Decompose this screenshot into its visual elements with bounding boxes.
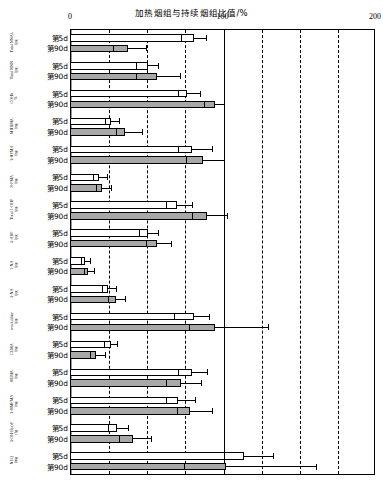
- bar-row: [70, 33, 375, 43]
- y-axis-day-label: 第5d: [34, 227, 68, 238]
- bar-row: [70, 378, 375, 388]
- bar-inner-marker: [71, 269, 85, 275]
- y-axis-day-label: 第5d: [34, 199, 68, 210]
- error-bar-cap: [224, 101, 225, 107]
- error-bar-line: [203, 160, 224, 161]
- bar-inner-marker: [71, 230, 140, 236]
- bar-day5: [70, 146, 192, 154]
- bar-row: [70, 323, 375, 333]
- error-bar-cap: [201, 380, 202, 386]
- y-axis-group-label: S-PMA(ng: [10, 167, 18, 197]
- bar-row: [70, 406, 375, 416]
- bar-day5: [70, 201, 177, 209]
- bar-row: [70, 284, 375, 294]
- bar-inner-marker: [71, 119, 106, 125]
- y-axis-day-label: 第90d: [34, 433, 68, 444]
- bar-inner-marker: [71, 352, 91, 358]
- bar-inner-marker: [71, 436, 120, 442]
- y-axis-day-label: 第5d: [34, 283, 68, 294]
- y-axis-day-label: 第5d: [34, 422, 68, 433]
- bar-day90: [70, 156, 203, 164]
- bar-inner-marker: [71, 91, 179, 97]
- y-axis-day-label: 第5d: [34, 450, 68, 461]
- error-bar-line: [99, 177, 107, 178]
- y-axis-group-label: Total NNAL(pg: [10, 27, 18, 57]
- bar-day5: [70, 397, 178, 405]
- error-bar-cap: [195, 397, 196, 403]
- error-bar-cap: [192, 202, 193, 208]
- error-bar-cap: [119, 118, 120, 124]
- bar-inner-marker: [71, 453, 225, 459]
- bar-day90: [70, 73, 157, 81]
- bar-day90: [70, 296, 116, 304]
- bar-day5: [70, 62, 148, 70]
- y-axis-day-label: 第90d: [34, 182, 68, 193]
- y-axis-day-label: 第90d: [34, 321, 68, 332]
- bar-row: [70, 100, 375, 110]
- bar-inner-marker: [71, 185, 97, 191]
- error-bar-line: [125, 132, 142, 133]
- error-bar-line: [128, 48, 146, 49]
- error-bar-line: [96, 355, 105, 356]
- y-axis-group-label: HEMA(ng: [10, 362, 18, 392]
- bar-day90: [70, 407, 190, 415]
- bar-day5: [70, 424, 117, 432]
- y-axis-group-label: Total 1-OHP(pg: [10, 194, 18, 224]
- error-bar-line: [148, 233, 159, 234]
- error-bar-line: [194, 38, 206, 39]
- bar-inner-marker: [71, 370, 179, 376]
- y-axis-day-label: 第90d: [34, 265, 68, 276]
- y-axis-group-label: 3-HPMA(ng: [10, 139, 18, 169]
- error-bar-cap: [212, 408, 213, 414]
- error-bar-cap: [171, 241, 172, 247]
- bar-day90: [70, 45, 128, 53]
- bar-day90: [70, 212, 207, 220]
- y-axis-day-label: 第5d: [34, 311, 68, 322]
- bar-inner-marker: [71, 157, 187, 163]
- error-bar-cap: [107, 174, 108, 180]
- error-bar-line: [102, 188, 111, 189]
- bar-inner-marker: [71, 342, 105, 348]
- error-bar-cap: [212, 146, 213, 152]
- y-axis-day-label: 第90d: [34, 238, 68, 249]
- bar-inner-marker: [71, 464, 185, 470]
- bar-day90: [70, 268, 88, 276]
- error-bar-line: [215, 104, 224, 105]
- y-axis-day-label: 第5d: [34, 338, 68, 349]
- y-axis-day-label: 第90d: [34, 42, 68, 53]
- x-tick-label-0: 0: [68, 12, 72, 21]
- y-axis-group-label: MHBMA(ng: [10, 111, 18, 141]
- bar-day90: [70, 463, 226, 471]
- error-bar-line: [178, 400, 195, 401]
- error-bar-line: [133, 438, 151, 439]
- bar-row: [70, 423, 375, 433]
- y-axis-day-label: 第90d: [34, 349, 68, 360]
- y-axis-group-label: 2-NA(pg: [10, 278, 18, 308]
- y-axis-day-label: 第5d: [34, 88, 68, 99]
- bar-row: [70, 61, 375, 71]
- bar-row: [70, 434, 375, 444]
- bar-day90: [70, 351, 96, 359]
- error-bar-line: [177, 205, 192, 206]
- y-axis-day-label: 第5d: [34, 394, 68, 405]
- y-axis-day-label: 第90d: [34, 70, 68, 81]
- y-axis-group-label: CEMA(ng: [10, 334, 18, 364]
- y-axis-day-label: 第5d: [34, 60, 68, 71]
- bar-day90: [70, 101, 215, 109]
- bar-row: [70, 145, 375, 155]
- error-bar-cap: [180, 73, 181, 79]
- bar-row: [70, 72, 375, 82]
- x-tick-label-200: 200: [369, 12, 381, 21]
- y-axis-day-label: 第5d: [34, 143, 68, 154]
- bar-day90: [70, 240, 157, 248]
- error-bar-cap: [227, 213, 228, 219]
- bar-day5: [70, 313, 194, 321]
- error-bar-line: [157, 243, 171, 244]
- bar-inner-marker: [71, 398, 167, 404]
- error-bar-cap: [117, 341, 118, 347]
- bar-row: [70, 256, 375, 266]
- bar-day5: [70, 174, 99, 182]
- error-bar-cap: [116, 286, 117, 292]
- bar-row: [70, 183, 375, 193]
- bar-row: [70, 451, 375, 461]
